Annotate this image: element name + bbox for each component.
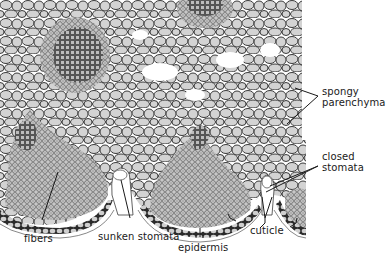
label-spongy-parenchyma: spongy parenchyma: [322, 86, 390, 108]
label-fibers: fibers: [24, 233, 53, 244]
label-sunken-stomata: sunken stomata: [98, 231, 180, 242]
label-line: spongy: [322, 86, 390, 97]
label-line: closed: [322, 151, 390, 162]
label-cuticle: cuticle: [250, 225, 284, 236]
label-closed-stomata: closed stomata: [322, 151, 390, 173]
label-line: stomata: [322, 162, 390, 173]
label-epidermis: epidermis: [178, 242, 228, 253]
label-line: parenchyma: [322, 97, 390, 108]
